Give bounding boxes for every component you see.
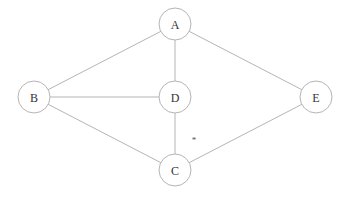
- node-label: C: [171, 164, 179, 178]
- graph-diagram: ABDEC *: [0, 0, 347, 202]
- edge-b-c: [34, 97, 175, 170]
- edge-annotation-mark: *: [192, 135, 197, 145]
- node-b: B: [18, 81, 50, 113]
- node-c: C: [159, 154, 191, 186]
- node-d: D: [159, 81, 191, 113]
- node-a: A: [159, 8, 191, 40]
- node-label: E: [312, 91, 319, 105]
- edge-c-e: [175, 97, 316, 170]
- node-label: D: [171, 91, 180, 105]
- node-e: E: [300, 81, 332, 113]
- edge-a-b: [34, 24, 175, 97]
- edge-a-e: [175, 24, 316, 97]
- node-label: A: [171, 18, 180, 32]
- node-label: B: [30, 91, 38, 105]
